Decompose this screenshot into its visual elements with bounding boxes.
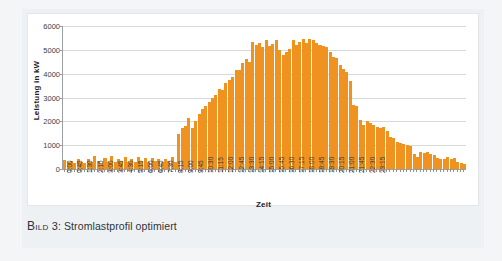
x-tickmark: [430, 169, 431, 172]
x-tickmark: [420, 169, 421, 172]
x-tickmark: [423, 169, 424, 172]
x-tickmark: [366, 169, 367, 172]
x-tickmark: [393, 169, 394, 172]
x-tickmark: [356, 169, 357, 172]
x-tick-label: 12:00: [227, 157, 234, 173]
x-tickmark: [225, 169, 226, 172]
x-tick-label: 6:00: [147, 160, 154, 173]
x-tick-label: 14:15: [258, 157, 265, 173]
x-tickmark: [440, 169, 441, 172]
x-tickmark: [215, 169, 216, 172]
x-tickmark: [460, 169, 461, 172]
x-axis-title: Zeit: [62, 200, 465, 209]
x-tickmark: [416, 169, 417, 172]
x-tick-label: 13:30: [248, 157, 255, 173]
x-tick-label: 16:30: [288, 157, 295, 173]
x-tickmark: [396, 169, 397, 172]
y-tick-label: 1000: [32, 141, 60, 150]
x-tickmark: [450, 169, 451, 172]
x-tick-label: 19:30: [328, 157, 335, 173]
figure-caption-bar: Bild 3: Stromlastprofil optimiert: [27, 214, 479, 238]
x-tickmark: [84, 169, 85, 172]
x-tickmark: [447, 169, 448, 172]
caption-prefix: Bild: [27, 219, 49, 233]
x-tickmark: [255, 169, 256, 172]
x-tick-label: 7:30: [167, 160, 174, 173]
x-tickmark: [400, 169, 401, 172]
y-tick-label: 3000: [32, 93, 60, 102]
x-tick-label: 18:00: [308, 157, 315, 173]
x-tickmark: [285, 169, 286, 172]
x-tickmark: [413, 169, 414, 172]
x-tickmark: [433, 169, 434, 172]
x-tickmark: [74, 169, 75, 172]
x-tickmark: [114, 169, 115, 172]
x-tickmark: [406, 169, 407, 172]
x-tickmark: [64, 169, 65, 172]
figure-caption: Bild 3: Stromlastprofil optimiert: [27, 219, 177, 233]
x-tick-label: 12:45: [238, 157, 245, 173]
x-tick-label: 10:30: [207, 157, 214, 173]
y-axis-tick-labels: 0100020003000400050006000: [31, 0, 60, 200]
x-tickmark: [376, 169, 377, 172]
x-tick-label: 22:30: [369, 157, 376, 173]
x-tickmark: [154, 169, 155, 172]
x-tick-label: 23:15: [379, 157, 386, 173]
plot-area: [62, 26, 466, 170]
x-tick-label: 1:30: [86, 160, 93, 173]
figure-container: Leistung in kW 0100020003000400050006000…: [0, 0, 502, 261]
x-tick-label: 0:00: [66, 160, 73, 173]
x-tick-label: 0:45: [76, 160, 83, 173]
x-tickmark: [316, 169, 317, 172]
y-tick-label: 4000: [32, 69, 60, 78]
x-tickmark: [164, 169, 165, 172]
x-tickmark: [175, 169, 176, 172]
x-tickmark: [336, 169, 337, 172]
x-tickmark: [235, 169, 236, 172]
x-tick-label: 8:15: [177, 160, 184, 173]
x-tick-label: 4:30: [127, 160, 134, 173]
x-tickmark: [386, 169, 387, 172]
x-tick-label: 9:45: [197, 160, 204, 173]
x-tickmark: [453, 169, 454, 172]
x-tickmark: [457, 169, 458, 172]
x-tickmark: [265, 169, 266, 172]
x-tickmark: [463, 169, 464, 172]
x-tickmark: [346, 169, 347, 172]
x-tickmark: [443, 169, 444, 172]
x-tickmark: [124, 169, 125, 172]
y-tick-label: 5000: [32, 45, 60, 54]
x-tick-label: 15:00: [268, 157, 275, 173]
x-tickmark: [104, 169, 105, 172]
x-tickmark: [326, 169, 327, 172]
x-tickmark: [389, 169, 390, 172]
x-tickmark: [195, 169, 196, 172]
x-tick-label: 11:15: [217, 157, 224, 173]
y-tick-label: 0: [32, 165, 60, 174]
x-tickmark: [305, 169, 306, 172]
x-tickmark: [245, 169, 246, 172]
x-tickmark: [275, 169, 276, 172]
x-tick-label: 21:45: [358, 157, 365, 173]
x-tickmark: [410, 169, 411, 172]
x-tick-label: 5:15: [137, 160, 144, 173]
bar-series: [63, 26, 466, 169]
x-tickmark: [185, 169, 186, 172]
x-tickmark: [94, 169, 95, 172]
y-tick-label: 2000: [32, 117, 60, 126]
x-tick-label: 6:45: [157, 160, 164, 173]
x-axis-tick-labels: 0:000:451:302:153:003:454:305:156:006:45…: [62, 173, 465, 203]
x-tickmark: [403, 169, 404, 172]
x-tickmark: [426, 169, 427, 172]
x-tick-label: 15:45: [278, 157, 285, 173]
x-tickmark: [134, 169, 135, 172]
x-tick-label: 3:00: [107, 160, 114, 173]
x-tick-label: 20:15: [338, 157, 345, 173]
x-tickmark: [144, 169, 145, 172]
x-tick-label: 21:00: [348, 157, 355, 173]
x-tickmark: [295, 169, 296, 172]
caption-text: Stromlastprofil optimiert: [64, 220, 177, 232]
x-tick-label: 17:15: [298, 157, 305, 173]
x-tickmark: [205, 169, 206, 172]
x-tickmark: [436, 169, 437, 172]
